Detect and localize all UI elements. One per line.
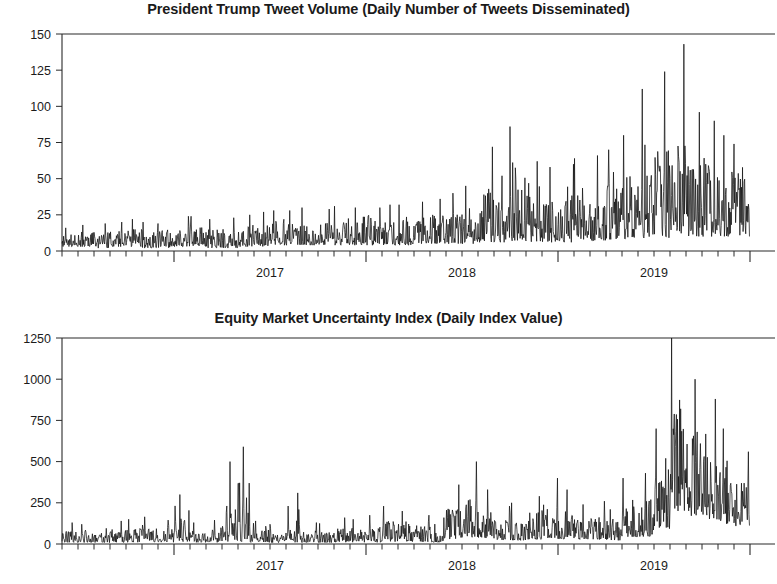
panel-title-tweet-volume: President Trump Tweet Volume (Daily Numb… — [0, 1, 777, 17]
panel-title-equity-uncertainty: Equity Market Uncertainty Index (Daily I… — [0, 310, 777, 326]
plot-area-tweet-volume: 0255075100125150201720182019 — [0, 22, 777, 292]
y-tick-label: 1250 — [23, 332, 51, 346]
two-panel-time-series-figure: President Trump Tweet Volume (Daily Numb… — [0, 0, 777, 584]
x-tick-label-year: 2019 — [640, 559, 668, 573]
x-tick-label-year: 2018 — [448, 266, 476, 280]
y-tick-label: 150 — [30, 28, 51, 42]
y-tick-label: 1000 — [23, 373, 51, 387]
y-tick-label: 75 — [37, 136, 51, 150]
y-tick-label: 100 — [30, 100, 51, 114]
series-line-tweet-volume — [62, 44, 749, 248]
chart-svg-equity-uncertainty: 025050075010001250201720182019 — [0, 328, 777, 584]
y-tick-label: 0 — [44, 245, 51, 259]
y-tick-label: 750 — [30, 414, 51, 428]
series-line-equity-uncertainty — [62, 338, 749, 543]
chart-svg-tweet-volume: 0255075100125150201720182019 — [0, 22, 777, 292]
y-tick-label: 50 — [37, 172, 51, 186]
y-tick-label: 250 — [30, 496, 51, 510]
y-tick-label: 0 — [44, 538, 51, 552]
x-tick-label-year: 2018 — [448, 559, 476, 573]
panel-tweet-volume: President Trump Tweet Volume (Daily Numb… — [0, 0, 777, 292]
plot-area-equity-uncertainty: 025050075010001250201720182019 — [0, 328, 777, 584]
y-tick-label: 25 — [37, 208, 51, 222]
y-tick-label: 500 — [30, 455, 51, 469]
y-tick-label: 125 — [30, 64, 51, 78]
x-tick-label-year: 2017 — [256, 559, 284, 573]
x-tick-label-year: 2019 — [640, 266, 668, 280]
panel-equity-uncertainty: Equity Market Uncertainty Index (Daily I… — [0, 292, 777, 584]
x-tick-label-year: 2017 — [256, 266, 284, 280]
